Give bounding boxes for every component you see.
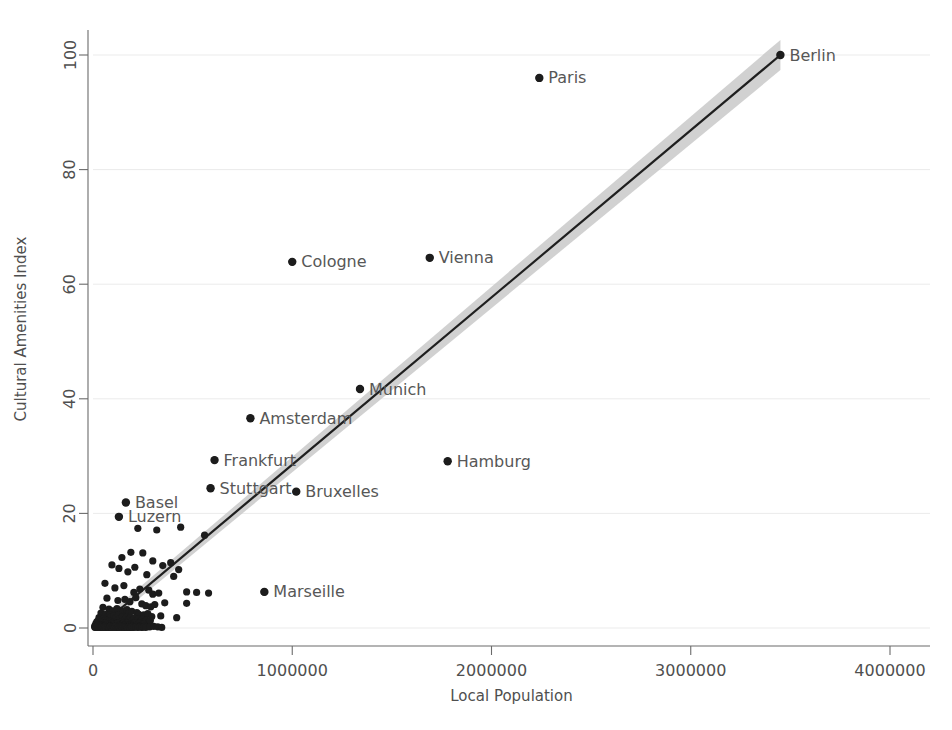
y-tick-label: 80 (61, 159, 80, 179)
tick-labels: 0204060801000100000020000003000000400000… (61, 40, 926, 680)
x-axis-title: Local Population (450, 687, 572, 705)
annotation-label-stuttgart: Stuttgart (220, 479, 292, 498)
x-tick-label: 4000000 (854, 661, 925, 680)
annotation-label-munich: Munich (369, 380, 426, 399)
annotation-label-cologne: Cologne (301, 252, 366, 271)
y-tick-label: 100 (61, 40, 80, 71)
x-tick-label: 0 (88, 661, 98, 680)
x-tick-label: 2000000 (456, 661, 527, 680)
confidence-band (101, 40, 780, 630)
annotation-label-bruxelles: Bruxelles (305, 482, 379, 501)
gridlines (93, 55, 930, 628)
y-tick-label: 20 (61, 503, 80, 523)
annotation-label-luzern: Luzern (128, 507, 181, 526)
annotation-label-paris: Paris (548, 68, 586, 87)
scatter-plot: BerlinParisViennaCologneMunichAmsterdamH… (0, 0, 952, 730)
annotation-label-amsterdam: Amsterdam (259, 409, 352, 428)
y-axis-title: Cultural Amenities Index (12, 236, 30, 421)
x-tick-label: 1000000 (257, 661, 328, 680)
annotation-label-hamburg: Hamburg (457, 452, 531, 471)
regression-line (101, 55, 780, 625)
y-tick-label: 40 (61, 389, 80, 409)
y-tick-label: 60 (61, 274, 80, 294)
y-tick-label: 0 (61, 623, 80, 633)
annotation-label-marseille: Marseille (273, 582, 345, 601)
annotation-label-vienna: Vienna (439, 248, 494, 267)
annotation-label-frankfurt: Frankfurt (224, 451, 296, 470)
x-tick-label: 3000000 (655, 661, 726, 680)
annotation-label-berlin: Berlin (789, 46, 835, 65)
axes (79, 30, 930, 655)
chart-container: BerlinParisViennaCologneMunichAmsterdamH… (0, 0, 952, 730)
